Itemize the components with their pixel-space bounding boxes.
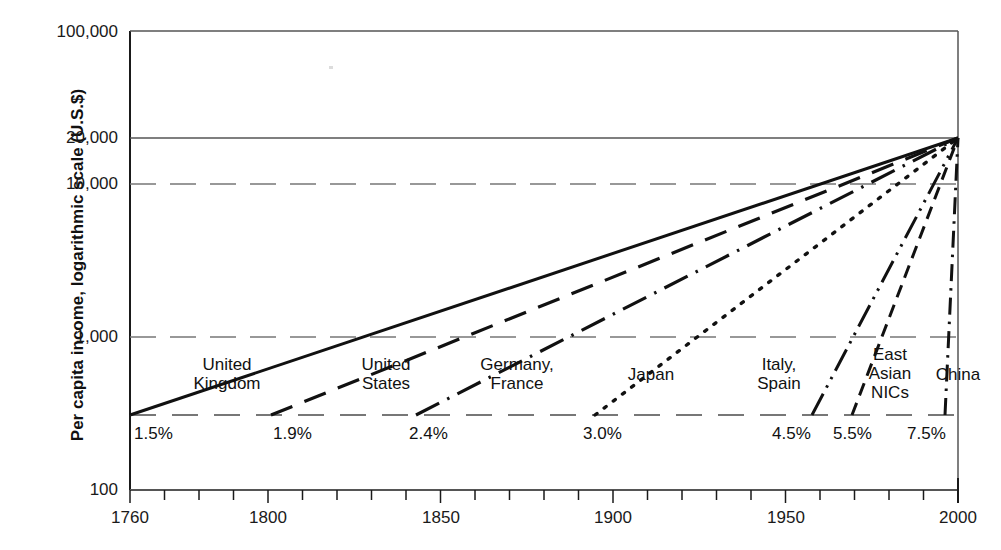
series-label-japan-line1: Japan <box>606 365 696 384</box>
series-label-germany-france: Germany, France <box>458 355 576 393</box>
y-tick-label-20000: 20,000 <box>0 128 118 148</box>
x-tick-label-1900: 1900 <box>574 508 652 528</box>
series-label-united-kingdom-line1: United <box>167 355 287 374</box>
x-tick-label-2000: 2000 <box>919 508 997 528</box>
series-label-east-asian-nics-line2: Asian <box>856 364 924 383</box>
rate-label-east-asian-nics: 5.5% <box>833 424 872 444</box>
rate-label-japan: 3.0% <box>583 424 622 444</box>
x-tick-label-1850: 1850 <box>402 508 480 528</box>
plot-area <box>0 0 1001 550</box>
rate-label-china: 7.5% <box>907 424 946 444</box>
y-tick-label-100: 100 <box>0 480 118 500</box>
series-label-china-line1: China <box>922 365 994 384</box>
series-label-italy-spain-line1: Italy, <box>742 355 816 374</box>
series-label-united-kingdom-line2: Kingdom <box>167 374 287 393</box>
series-label-china: China <box>922 365 994 384</box>
rate-label-germany-france: 2.4% <box>409 424 448 444</box>
series-label-united-states: United States <box>336 355 436 393</box>
series-label-united-states-line1: United <box>336 355 436 374</box>
x-tick-label-1760: 1760 <box>91 508 169 528</box>
series-label-united-kingdom: United Kingdom <box>167 355 287 393</box>
series-label-east-asian-nics: East Asian NICs <box>856 345 924 402</box>
series-label-germany-france-line2: France <box>458 374 576 393</box>
rate-label-italy-spain: 4.5% <box>772 424 811 444</box>
series-label-east-asian-nics-line1: East <box>856 345 924 364</box>
rate-label-united-kingdom: 1.5% <box>134 424 173 444</box>
series-label-japan: Japan <box>606 365 696 384</box>
y-tick-label-10000: 10,000 <box>0 174 118 194</box>
series-label-germany-france-line1: Germany, <box>458 355 576 374</box>
y-tick-label-100000: 100,000 <box>0 22 118 42</box>
x-tick-label-1950: 1950 <box>747 508 825 528</box>
series-label-united-states-line2: States <box>336 374 436 393</box>
rate-label-united-states: 1.9% <box>273 424 312 444</box>
series-label-italy-spain-line2: Spain <box>742 374 816 393</box>
chart-figure: Per capita income, logarithmic scale (U.… <box>0 0 1001 550</box>
x-tick-label-1800: 1800 <box>229 508 307 528</box>
scan-speck <box>329 66 333 69</box>
series-label-italy-spain: Italy, Spain <box>742 355 816 393</box>
series-label-east-asian-nics-line3: NICs <box>856 383 924 402</box>
y-tick-label-1000: 1,000 <box>0 327 118 347</box>
